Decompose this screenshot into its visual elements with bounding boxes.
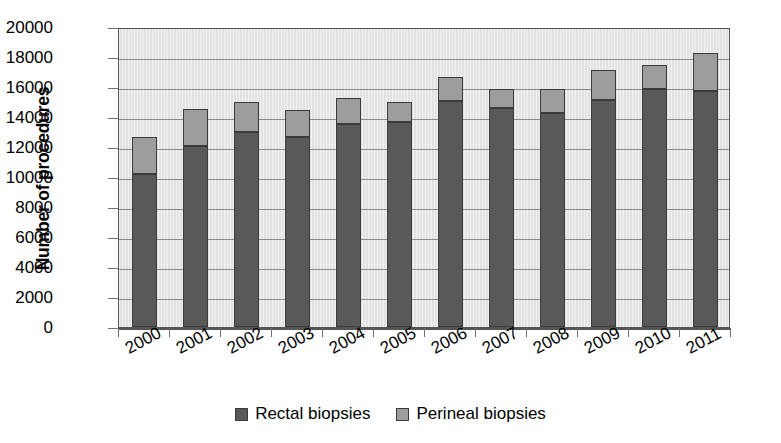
x-tick-mark <box>424 328 425 337</box>
legend-item[interactable]: Rectal biopsies <box>235 404 370 424</box>
y-tick-mark <box>108 238 118 239</box>
gridline <box>119 269 729 270</box>
y-tick-label-text: 16000 <box>6 78 53 98</box>
bar-group[interactable] <box>132 28 158 327</box>
bar-segment[interactable] <box>693 91 719 327</box>
bar-group[interactable] <box>183 28 209 327</box>
legend-swatch-icon <box>235 408 248 421</box>
bar-segment[interactable] <box>438 77 464 102</box>
y-tick-label-text: 2000 <box>15 288 53 308</box>
bar-segment[interactable] <box>387 122 413 328</box>
bar-segment[interactable] <box>642 65 668 89</box>
bar-group[interactable] <box>489 28 515 327</box>
bar-segment[interactable] <box>132 174 158 327</box>
gridline <box>119 209 729 210</box>
gridline <box>119 89 729 90</box>
legend-item[interactable]: Perineal biopsies <box>396 404 545 424</box>
x-tick-mark <box>577 328 578 337</box>
bar-segment[interactable] <box>132 137 158 174</box>
y-tick-label-text: 0 <box>44 318 53 338</box>
gridline <box>119 59 729 60</box>
y-tick-label-text: 8000 <box>15 198 53 218</box>
x-tick-mark <box>475 328 476 337</box>
y-tick-label-text: 18000 <box>6 48 53 68</box>
x-tick-mark <box>679 328 680 337</box>
chart-legend: Rectal biopsiesPerineal biopsies <box>0 404 781 424</box>
bar-group[interactable] <box>540 28 566 327</box>
stacked-bar-chart: Number of procedures 0200040006000800010… <box>0 0 781 443</box>
y-tick-label-text: 6000 <box>15 228 53 248</box>
legend-label: Rectal biopsies <box>255 404 370 424</box>
bar-segment[interactable] <box>693 53 719 91</box>
legend-label: Perineal biopsies <box>416 404 545 424</box>
bar-segment[interactable] <box>387 102 413 122</box>
y-tick-label-text: 14000 <box>6 108 53 128</box>
bar-group[interactable] <box>336 28 362 327</box>
y-tick-mark <box>108 328 118 329</box>
bar-segment[interactable] <box>642 89 668 328</box>
bar-segment[interactable] <box>591 100 617 327</box>
y-tick-label-text: 20000 <box>6 18 53 38</box>
y-tick-mark <box>108 28 118 29</box>
bar-segment[interactable] <box>591 70 617 100</box>
x-tick-mark <box>271 328 272 337</box>
bar-segment[interactable] <box>336 98 362 124</box>
bar-group[interactable] <box>234 28 260 327</box>
bar-group[interactable] <box>693 28 719 327</box>
bar-segment[interactable] <box>285 110 311 136</box>
gridline <box>119 179 729 180</box>
bar-segment[interactable] <box>183 109 209 146</box>
bar-segment[interactable] <box>438 101 464 327</box>
y-tick-label-text: 4000 <box>15 258 53 278</box>
x-tick-mark <box>730 328 731 337</box>
bar-segment[interactable] <box>285 137 311 328</box>
bar-segment[interactable] <box>540 89 566 113</box>
bar-group[interactable] <box>387 28 413 327</box>
y-tick-mark <box>108 58 118 59</box>
gridline <box>119 239 729 240</box>
bar-segment[interactable] <box>489 89 515 109</box>
y-tick-mark <box>108 178 118 179</box>
bar-segment[interactable] <box>540 113 566 327</box>
bar-segment[interactable] <box>234 132 260 327</box>
bar-group[interactable] <box>591 28 617 327</box>
bar-segment[interactable] <box>336 124 362 327</box>
y-tick-mark <box>108 118 118 119</box>
y-tick-label-text: 10000 <box>6 168 53 188</box>
y-tick-mark <box>108 298 118 299</box>
gridline <box>119 299 729 300</box>
y-tick-mark <box>108 88 118 89</box>
plot-area <box>118 28 730 328</box>
x-tick-mark <box>526 328 527 337</box>
x-tick-mark <box>220 328 221 337</box>
gridline <box>119 149 729 150</box>
y-tick-mark <box>108 148 118 149</box>
bar-group[interactable] <box>285 28 311 327</box>
y-tick-mark <box>108 208 118 209</box>
y-tick-label-text: 12000 <box>6 138 53 158</box>
x-tick-mark <box>373 328 374 337</box>
bar-group[interactable] <box>438 28 464 327</box>
y-tick-mark <box>108 268 118 269</box>
bar-segment[interactable] <box>234 102 260 132</box>
x-tick-mark <box>169 328 170 337</box>
gridline <box>119 119 729 120</box>
x-tick-mark <box>322 328 323 337</box>
bar-segment[interactable] <box>489 108 515 327</box>
bar-group[interactable] <box>642 28 668 327</box>
bar-segment[interactable] <box>183 146 209 328</box>
x-tick-mark <box>628 328 629 337</box>
x-tick-mark <box>118 328 119 337</box>
legend-swatch-icon <box>396 408 409 421</box>
